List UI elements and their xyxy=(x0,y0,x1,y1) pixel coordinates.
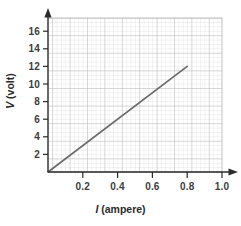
y-axis-unit: (volt) xyxy=(4,73,16,99)
y-tick-label-4: 4 xyxy=(22,131,40,142)
y-axis-title: V (volt) xyxy=(4,55,16,127)
x-axis-title: I (ampere) xyxy=(0,203,241,215)
y-tick-label-16: 16 xyxy=(22,26,40,37)
x-tick-label-1-0: 1.0 xyxy=(207,181,237,192)
y-tick-label-2: 2 xyxy=(22,149,40,160)
x-axis-unit: (ampere) xyxy=(101,203,145,215)
x-tick-label-0-8: 0.8 xyxy=(172,181,202,192)
chart-figure: 2 4 6 8 10 12 14 16 0.2 0.4 0.6 0.8 1.0 … xyxy=(0,0,241,226)
x-tick-label-0-6: 0.6 xyxy=(137,181,167,192)
y-tick-label-12: 12 xyxy=(22,61,40,72)
x-tick-label-0-2: 0.2 xyxy=(68,181,98,192)
y-tick-label-14: 14 xyxy=(22,43,40,54)
y-tick-label-8: 8 xyxy=(22,96,40,107)
y-tick-label-6: 6 xyxy=(22,114,40,125)
x-tick-label-0-4: 0.4 xyxy=(103,181,133,192)
grid-major xyxy=(48,18,222,172)
y-axis-symbol: V xyxy=(4,102,16,109)
y-tick-label-10: 10 xyxy=(22,79,40,90)
